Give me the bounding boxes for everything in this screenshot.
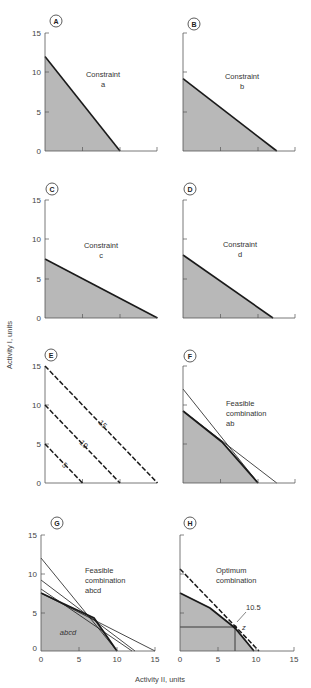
panel-f: F Feasible combination ab [183, 350, 295, 483]
panel-note: d [238, 250, 242, 259]
y-tick-label: 0 [37, 314, 42, 323]
feasible-region [180, 593, 254, 651]
panel-note: Feasible [85, 566, 113, 575]
panel-g: 15 10 5 0 0 5 10 15 G Feasible combinati… [28, 517, 160, 664]
panel-note: combination [216, 576, 256, 585]
label-leader [237, 612, 246, 622]
panel-note: Constraint [225, 72, 260, 81]
y-tick-label: 5 [37, 108, 42, 117]
panel-e: 5 10 15 15 10 5 0 E [32, 349, 157, 488]
y-tick-label: 0 [37, 479, 42, 488]
panel-note: combination [85, 576, 125, 585]
x-tick-label: 15 [290, 655, 299, 664]
y-tick-label: 15 [32, 196, 41, 205]
feasible-region [183, 411, 258, 483]
y-tick-label: 15 [32, 29, 41, 38]
x-tick-label: 0 [178, 655, 183, 664]
panel-letter: D [187, 186, 192, 193]
optimum-point [233, 625, 237, 629]
panel-letter: E [49, 352, 54, 359]
y-tick-label: 10 [32, 401, 41, 410]
panel-h: 10.5 z 0 5 10 15 H Optimum combination [178, 517, 299, 664]
y-tick-label: 10 [32, 68, 41, 77]
feasible-region [41, 593, 117, 651]
panel-b: B Constraint b [183, 18, 295, 151]
x-tick-label: 15 [151, 655, 160, 664]
panel-note: Optimum [216, 566, 246, 575]
y-tick-label: 5 [37, 440, 42, 449]
panel-c: 15 10 5 0 C Constraint c [32, 183, 157, 323]
panel-letter: H [187, 520, 192, 527]
panel-d: D Constraint d [183, 183, 295, 318]
y-tick-label: 5 [33, 609, 38, 618]
panel-letter: C [49, 186, 54, 193]
x-tick-label: 10 [252, 655, 261, 664]
region-label: abcd [60, 628, 77, 637]
x-tick-label: 5 [216, 655, 221, 664]
panel-note: combination [226, 409, 266, 418]
panel-letter: A [53, 18, 58, 25]
optimum-label: z [241, 623, 246, 632]
x-tick-label: 10 [113, 655, 122, 664]
panel-note: Constraint [223, 240, 258, 249]
iso-value-label: 10.5 [246, 603, 261, 612]
x-tick-label: 5 [77, 655, 82, 664]
y-axis-title: Activity I, units [5, 321, 14, 369]
panel-note: c [99, 251, 103, 260]
y-tick-label: 10 [32, 235, 41, 244]
y-tick-label: 10 [28, 570, 37, 579]
y-tick-label: 5 [37, 275, 42, 284]
figure: Activity I, units Activity II, units 15 … [0, 0, 311, 688]
panel-letter: B [191, 21, 196, 28]
panel-letter: F [188, 353, 193, 360]
y-tick-label: 15 [32, 362, 41, 371]
x-tick-label: 0 [39, 655, 44, 664]
y-tick-label: 0 [37, 147, 42, 156]
iso-label: 15 [97, 418, 109, 430]
panel-letter: G [54, 520, 60, 527]
panel-note: b [240, 82, 244, 91]
y-tick-label: 15 [28, 531, 37, 540]
panel-note: Constraint [86, 70, 121, 79]
panel-note: abcd [85, 586, 101, 595]
x-axis-title: Activity II, units [135, 675, 185, 684]
panel-note: a [101, 80, 106, 89]
y-tick-label: 0 [33, 644, 38, 653]
panel-note: Constraint [84, 241, 119, 250]
panel-note: Feasible [226, 399, 254, 408]
panel-a: 15 10 5 0 A Constraint a [32, 15, 157, 156]
panel-note: ab [226, 419, 234, 428]
